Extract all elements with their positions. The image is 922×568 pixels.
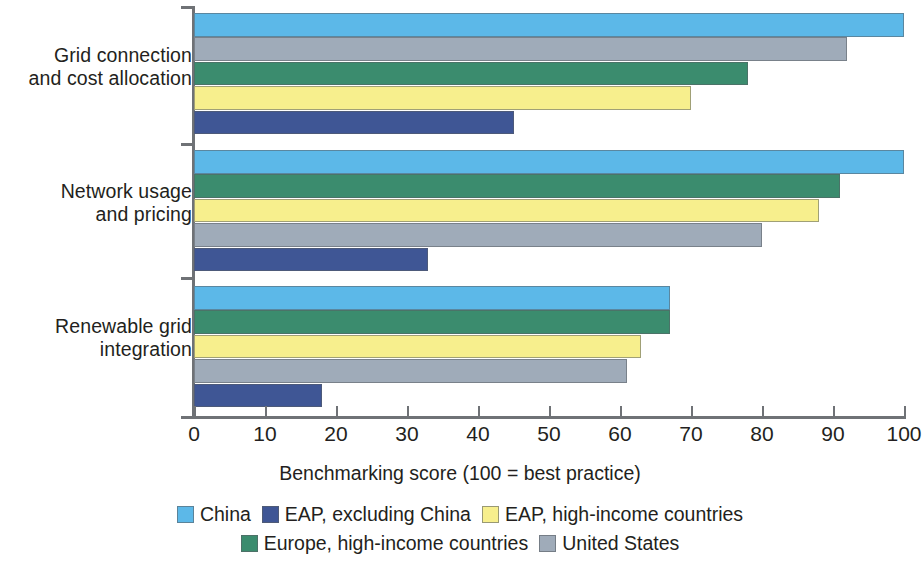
value-axis-tick-label: 90 [821,422,844,446]
bar [194,199,819,223]
legend-item[interactable]: EAP, high-income countries [482,505,743,525]
bar [194,335,641,359]
legend-label: China [200,505,251,525]
bar [194,13,904,37]
legend-item[interactable]: United States [539,534,679,554]
category-label-line: and pricing [0,203,192,226]
value-axis-tick-label: 80 [750,422,773,446]
bar [194,111,514,135]
value-axis-tick [904,406,906,417]
legend-row: Europe, high-income countriesUnited Stat… [0,529,920,558]
bar [194,150,904,174]
category-label-line: integration [0,338,192,361]
legend-item[interactable]: China [177,505,251,525]
legend-swatch-icon [241,535,258,552]
bar [194,359,627,383]
value-axis-tick-label: 100 [886,422,921,446]
value-axis-tick-label: 30 [395,422,418,446]
category-label-line: Renewable grid [0,315,192,338]
legend-swatch-icon [262,506,279,523]
bar [194,286,670,310]
value-axis-tick-label: 60 [608,422,631,446]
bar [194,62,748,86]
category-label-renewable-grid: Renewable grid integration [0,315,192,361]
value-axis-tick-label: 0 [188,422,200,446]
value-axis-tick-label: 40 [466,422,489,446]
value-axis-tick-label: 10 [253,422,276,446]
bar [194,223,762,247]
value-axis-tick [620,406,622,417]
category-label-grid-connection: Grid connection and cost allocation [0,44,192,90]
value-axis-tick [549,406,551,417]
x-axis-title: Benchmarking score (100 = best practice) [0,462,920,485]
category-label-line: and cost allocation [0,67,192,90]
value-axis-tick [336,406,338,417]
legend-item[interactable]: Europe, high-income countries [241,534,528,554]
category-axis-tick [181,6,194,9]
category-label-network-usage: Network usage and pricing [0,180,192,226]
value-axis-tick [265,406,267,417]
bar [194,384,322,408]
value-axis-tick-label: 50 [537,422,560,446]
plot-area: Grid connection and cost allocation Netw… [0,0,920,420]
bar [194,248,428,272]
value-axis-tick [833,406,835,417]
bar [194,174,840,198]
legend-label: EAP, high-income countries [505,505,743,525]
category-label-line: Grid connection [0,44,192,67]
legend-swatch-icon [177,506,194,523]
bar [194,310,670,334]
bar [194,86,691,110]
legend-swatch-icon [539,535,556,552]
bar [194,37,847,61]
legend-label: EAP, excluding China [285,505,471,525]
legend: ChinaEAP, excluding ChinaEAP, high-incom… [0,500,920,558]
category-axis-tick [181,143,194,146]
value-axis-tick-label: 20 [324,422,347,446]
value-axis-tick [762,406,764,417]
value-axis-tick [194,406,196,417]
legend-swatch-icon [482,506,499,523]
legend-item[interactable]: EAP, excluding China [262,505,471,525]
category-axis-tick [181,277,194,280]
value-axis-tick-label: 70 [679,422,702,446]
legend-label: United States [562,534,679,554]
value-axis-tick [407,406,409,417]
value-axis-tick [478,406,480,417]
value-axis-tick [691,406,693,417]
legend-label: Europe, high-income countries [264,534,528,554]
category-label-line: Network usage [0,180,192,203]
legend-row: ChinaEAP, excluding ChinaEAP, high-incom… [0,500,920,529]
